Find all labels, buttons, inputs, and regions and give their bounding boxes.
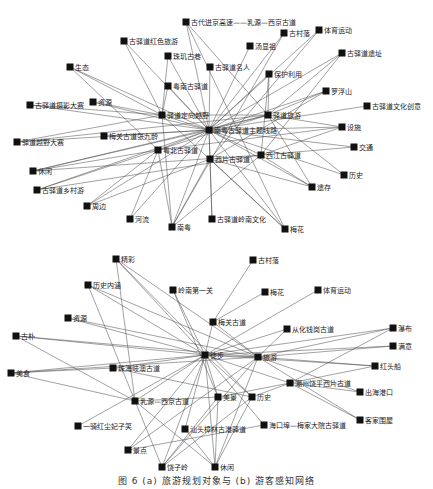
node-b10: 古朴 (13, 332, 36, 341)
node-square-marker (209, 216, 216, 223)
edge-b6-b4 (213, 292, 265, 322)
node-label: 古村落 (258, 256, 279, 265)
node-square-marker (210, 319, 217, 326)
node-square-marker (30, 168, 37, 175)
node-label: 历史内涵 (93, 281, 121, 290)
node-square-marker (84, 203, 91, 210)
node-square-marker (101, 133, 108, 140)
node-square-marker (155, 147, 162, 154)
node-b12: 旅游 (255, 353, 278, 362)
node-label: 景点 (133, 447, 147, 455)
node-a22: 西江古驿道 (258, 151, 302, 160)
node-square-marker (357, 417, 364, 424)
node-square-marker (110, 365, 117, 372)
edge-a19-a8 (209, 67, 210, 130)
node-b16: 潮州饶平西片古道 (287, 379, 352, 388)
node-square-marker (265, 112, 272, 119)
node-label: 珠海岐澳古道 (118, 364, 160, 373)
node-square-marker (34, 187, 41, 194)
edge-a14-a1 (124, 41, 162, 115)
node-label: 汤显祖 (255, 42, 276, 51)
node-square-marker (390, 325, 397, 332)
figure-caption: 图 6 (a) 旅游规划对象与 (b) 游客感知网络 (0, 474, 433, 487)
node-label: 古朴 (21, 332, 35, 341)
node-square-marker (390, 343, 397, 350)
node-square-marker (202, 352, 209, 359)
edge-b11-b2 (88, 285, 205, 355)
node-square-marker (357, 389, 364, 396)
node-label: 旅游 (263, 353, 277, 362)
edge-a19-a33 (209, 130, 285, 229)
node-square-marker (207, 156, 214, 163)
node-square-marker (132, 398, 139, 405)
edge-b11-b17 (11, 355, 205, 373)
node-label: 从化钱岗古道 (292, 325, 334, 334)
node-a23: 交通 (351, 143, 374, 152)
node-a27: 古驿道乡村游 (34, 186, 85, 195)
semantic-network-diagram: 古代进京高速——乳源—西京古道古驿道红色旅游汤显祖古村落体育运动珠玑古巷古驿道遗… (0, 0, 433, 489)
node-square-marker (339, 124, 346, 131)
node-square-marker (372, 363, 379, 370)
node-square-marker (250, 257, 257, 264)
node-square-marker (169, 224, 176, 231)
node-a32: 古驿道岭南文化 (209, 215, 267, 224)
node-label: 徒步 (210, 351, 224, 360)
node-b13: 满意 (390, 342, 413, 351)
node-label: 汕头樟林古港驿道 (190, 425, 246, 434)
edge-b6-b1 (213, 260, 253, 322)
node-label: 驿道越野大赛 (22, 138, 64, 147)
node-label: 古驿道岭南文化 (217, 215, 266, 224)
node-square-marker (121, 38, 128, 45)
node-square-marker (75, 423, 82, 430)
node-square-marker (14, 139, 21, 146)
nodes-layer: 古代进京高速——乳源—西京古道古驿道红色旅游汤显祖古村落体育运动珠玑古巷古驿道遗… (8, 18, 422, 472)
edge-b19-b0 (116, 259, 135, 401)
node-b28: 休闲 (212, 463, 235, 472)
node-a3: 古村落 (281, 29, 311, 38)
node-label: 遗存 (317, 183, 331, 192)
node-b21: 历史 (249, 393, 272, 402)
node-square-marker (316, 27, 323, 34)
node-b19: 乳源—西京古道 (132, 397, 190, 406)
node-square-marker (159, 112, 166, 119)
node-label: 梅关古道 (218, 318, 246, 327)
node-square-marker (315, 287, 322, 294)
node-square-marker (207, 64, 214, 71)
node-square-marker (165, 53, 172, 60)
node-b3: 岭南第一关 (170, 286, 214, 295)
edge-b11-b7 (68, 318, 205, 355)
node-square-marker (284, 326, 291, 333)
node-label: 生态 (75, 63, 89, 72)
node-label: 交通 (359, 143, 373, 152)
node-square-marker (255, 354, 262, 361)
node-a4: 体育运动 (316, 26, 353, 35)
node-b1: 古村落 (250, 256, 280, 265)
node-label: 古驿道摄影大赛 (35, 101, 84, 110)
node-square-marker (159, 464, 166, 471)
node-a1: 古驿道红色旅游 (121, 37, 179, 46)
node-label: 出海港口 (365, 388, 393, 397)
node-b23: 一骑红尘妃子笑 (75, 422, 133, 431)
node-label: 南粤 (177, 223, 191, 232)
node-label: 资源 (98, 98, 112, 107)
node-label: 西片古驿道 (215, 155, 250, 164)
node-square-marker (261, 422, 268, 429)
node-a25: 西片古驿道 (207, 155, 251, 164)
node-label: 西江古驿道 (266, 151, 301, 160)
node-square-marker (249, 394, 256, 401)
node-label: 梅花 (290, 225, 304, 234)
node-a17: 驿道越野大赛 (14, 138, 65, 147)
node-a6: 古驿道遗址 (339, 49, 383, 58)
edge-b20-b3 (173, 290, 218, 397)
node-label: 满意 (398, 342, 412, 351)
edge-a21-a29 (87, 150, 158, 206)
node-label: 美食 (16, 369, 30, 378)
node-square-marker (170, 287, 177, 294)
node-square-marker (262, 289, 269, 296)
node-b0: 精彩 (113, 255, 136, 264)
node-square-marker (206, 127, 213, 134)
edge-b12-b28 (215, 357, 258, 467)
edge-b12-b22 (258, 357, 360, 420)
node-a9: 保护利用 (266, 70, 303, 79)
node-b18: 出海港口 (357, 388, 394, 397)
